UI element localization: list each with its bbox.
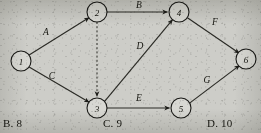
node-3-label: 3 xyxy=(94,104,100,114)
node-4: 4 xyxy=(169,2,189,22)
node-1-label: 1 xyxy=(19,57,24,67)
edge-D-line xyxy=(105,20,173,102)
edge-G-line xyxy=(190,65,240,103)
edge-label-B: B xyxy=(136,0,142,10)
edge-label-D: D xyxy=(136,41,144,51)
scanned-diagram-page: A C B D E F G 1 2 3 4 xyxy=(0,0,261,133)
edge-label-A: A xyxy=(42,27,49,37)
edges-layer xyxy=(29,12,240,108)
edge-label-C: C xyxy=(49,71,56,81)
node-1: 1 xyxy=(11,51,31,71)
node-4-label: 4 xyxy=(177,8,182,18)
node-5: 5 xyxy=(171,98,191,118)
edge-label-E: E xyxy=(135,93,142,103)
answer-option-c[interactable]: C. 9 xyxy=(103,117,122,129)
node-3: 3 xyxy=(87,98,107,118)
activity-network-graph: A C B D E F G 1 2 3 4 xyxy=(0,0,261,133)
node-6-label: 6 xyxy=(244,55,249,65)
nodes-layer: 1 2 3 4 5 6 xyxy=(11,2,256,118)
answer-option-b[interactable]: B. 8 xyxy=(3,117,22,129)
edge-A-line xyxy=(29,18,89,56)
node-6: 6 xyxy=(236,49,256,69)
edge-labels-layer: A C B D E F G xyxy=(42,0,218,103)
edge-C-line xyxy=(29,67,89,102)
node-2: 2 xyxy=(87,2,107,22)
answer-option-d[interactable]: D. 10 xyxy=(207,117,232,129)
edge-label-F: F xyxy=(211,17,218,27)
node-2-label: 2 xyxy=(95,8,100,18)
node-5-label: 5 xyxy=(179,104,184,114)
edge-label-G: G xyxy=(204,75,211,85)
